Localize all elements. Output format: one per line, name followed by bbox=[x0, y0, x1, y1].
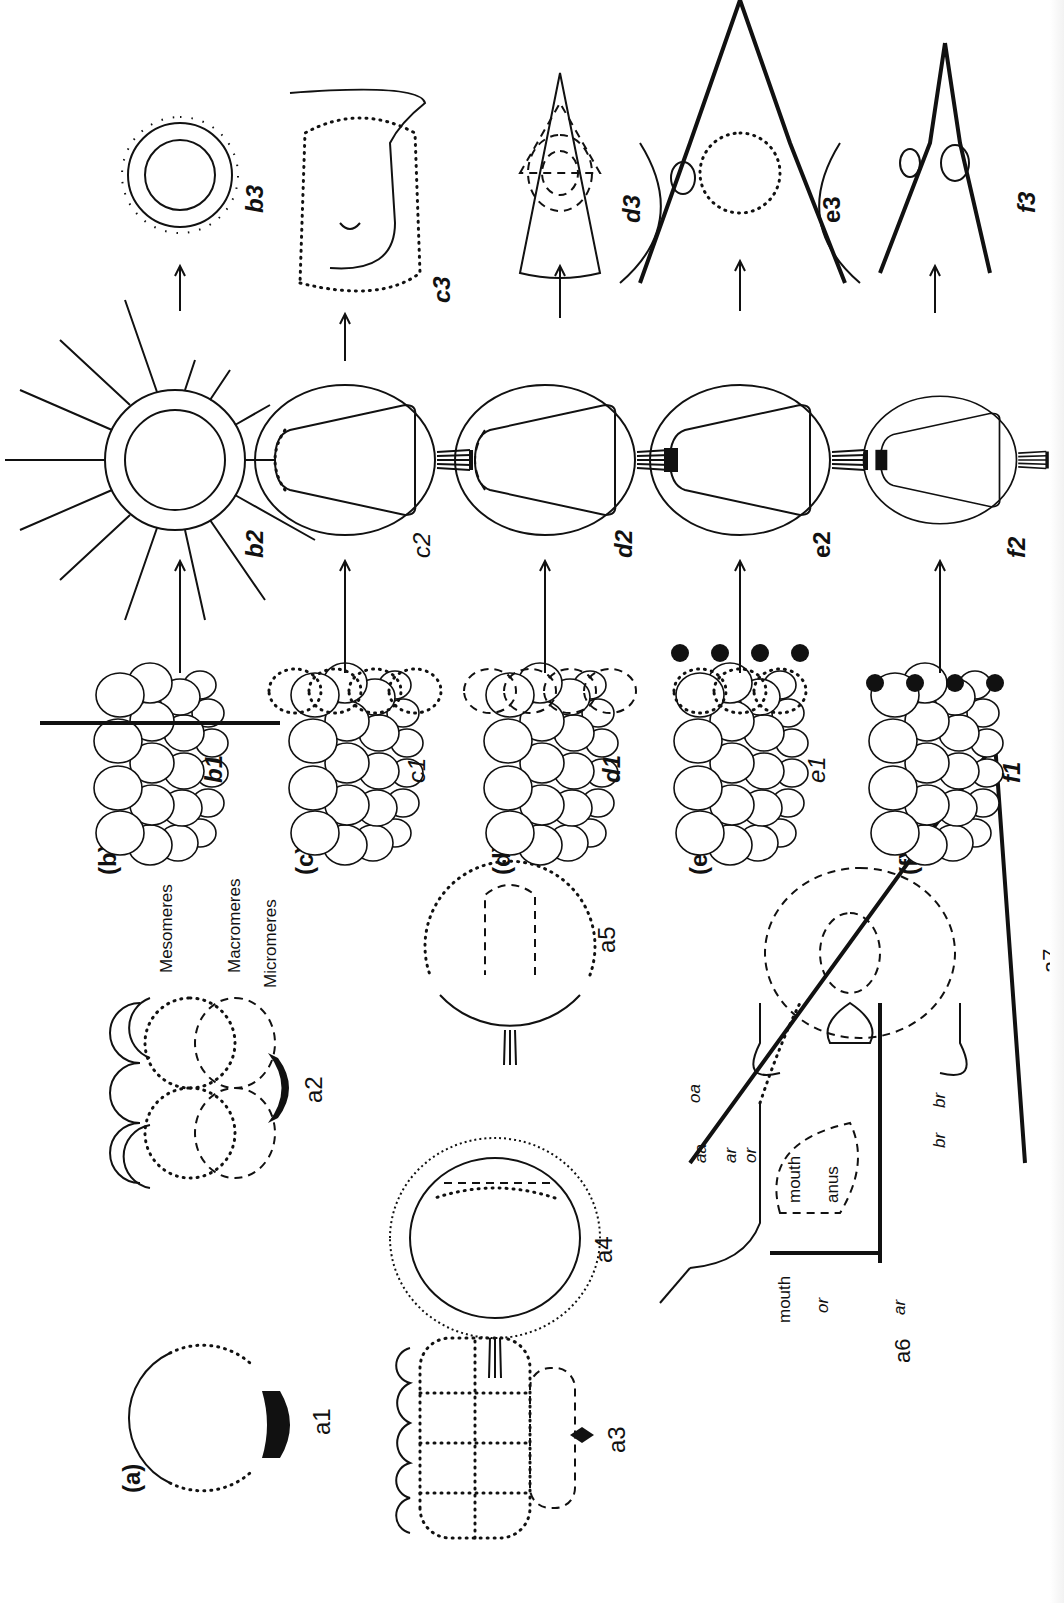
stage-f2-diagram bbox=[864, 396, 1049, 524]
a6-label-or: or bbox=[813, 1297, 832, 1313]
stage-label-c2: c2 bbox=[408, 533, 435, 558]
stage-label-e2: e2 bbox=[808, 531, 835, 558]
stage-label-f2: f2 bbox=[1003, 536, 1030, 558]
arrow-icon bbox=[175, 261, 940, 361]
stage-label-d3: d3 bbox=[618, 194, 645, 223]
stage-d3-diagram bbox=[520, 73, 600, 278]
stage-label-a3: a3 bbox=[603, 1426, 630, 1453]
stage-label-c3: c3 bbox=[428, 276, 455, 303]
stage-b3-diagram bbox=[122, 117, 238, 233]
stage-label-f1: f1 bbox=[998, 762, 1025, 783]
stage-a5-diagram bbox=[425, 861, 595, 1065]
label-macromeres: Macromeres bbox=[225, 879, 244, 973]
stage-c2-diagram bbox=[255, 385, 473, 535]
stage-a2-diagram bbox=[110, 998, 289, 1188]
stage-label-d2: d2 bbox=[610, 529, 637, 558]
arrow-icon bbox=[175, 561, 945, 673]
stage-label-a2: a2 bbox=[300, 1076, 327, 1103]
embryo-development-figure: (a) a1 a2 Mesomeres Macromeres Micromere… bbox=[0, 0, 1064, 1603]
stage-label-a6: a6 bbox=[890, 1339, 915, 1363]
panel-label-a: (a) bbox=[118, 1464, 145, 1493]
stage-b1-diagram bbox=[40, 663, 280, 865]
stage-e3-diagram bbox=[620, 0, 860, 283]
stage-label-a5: a5 bbox=[593, 926, 620, 953]
a7-label-or: or bbox=[741, 1147, 760, 1163]
stage-label-b3: b3 bbox=[241, 184, 268, 213]
a7-label-br: br bbox=[930, 1092, 949, 1108]
stage-d2-diagram bbox=[455, 385, 673, 535]
a6-label-br: br bbox=[930, 1132, 949, 1148]
stage-label-d1: d1 bbox=[598, 755, 625, 783]
stage-e2-diagram bbox=[650, 385, 868, 535]
a7-label-oa: oa bbox=[685, 1084, 704, 1103]
stage-label-b1: b1 bbox=[200, 755, 227, 783]
stage-f3-diagram bbox=[880, 43, 990, 273]
stage-label-a1: a1 bbox=[308, 1408, 335, 1435]
stage-a1-diagram bbox=[129, 1345, 290, 1491]
a7-label-mouth: mouth bbox=[785, 1156, 804, 1203]
label-micromeres: Micromeres bbox=[261, 899, 280, 988]
stage-label-a4: a4 bbox=[590, 1236, 617, 1263]
stage-c3-diagram bbox=[290, 90, 425, 291]
stage-label-f3: f3 bbox=[1013, 191, 1040, 213]
stage-label-e3: e3 bbox=[818, 196, 845, 223]
stage-label-e1: e1 bbox=[803, 756, 830, 783]
stage-e1-diagram bbox=[671, 644, 809, 865]
a7-label-aa: aa bbox=[691, 1144, 710, 1163]
a6-label-mouth: mouth bbox=[775, 1276, 794, 1323]
stage-b2-diagram bbox=[5, 300, 315, 620]
page-edge bbox=[1050, 0, 1064, 1603]
a6-label-ar: ar bbox=[890, 1299, 909, 1315]
stage-label-c1: c1 bbox=[403, 758, 430, 783]
stage-f1-diagram bbox=[866, 663, 1004, 865]
a7-label-anus: anus bbox=[823, 1166, 842, 1203]
label-mesomeres: Mesomeres bbox=[157, 884, 176, 973]
stage-label-b2: b2 bbox=[241, 529, 268, 558]
a7-label-ar: ar bbox=[721, 1147, 740, 1163]
stage-a4-diagram bbox=[390, 1138, 600, 1378]
